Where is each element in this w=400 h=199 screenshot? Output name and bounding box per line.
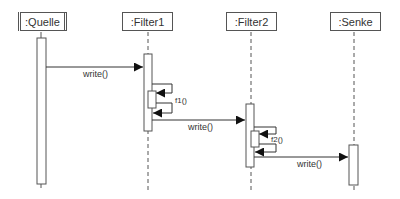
message-label-write-1: write(): [83, 70, 108, 79]
participant-filter2: :Filter2: [226, 12, 277, 31]
participant-quelle: :Quelle: [18, 12, 67, 31]
activation-senke: [349, 145, 358, 185]
message-label-f2: f2(): [271, 136, 283, 144]
message-label-write-2: write(): [188, 123, 213, 132]
message-label-f1: f1(): [175, 97, 187, 105]
message-label-write-3: write(): [297, 160, 322, 169]
activation-quelle: [37, 38, 46, 184]
participant-filter1: :Filter1: [122, 12, 173, 31]
participant-senke: :Senke: [330, 12, 381, 31]
